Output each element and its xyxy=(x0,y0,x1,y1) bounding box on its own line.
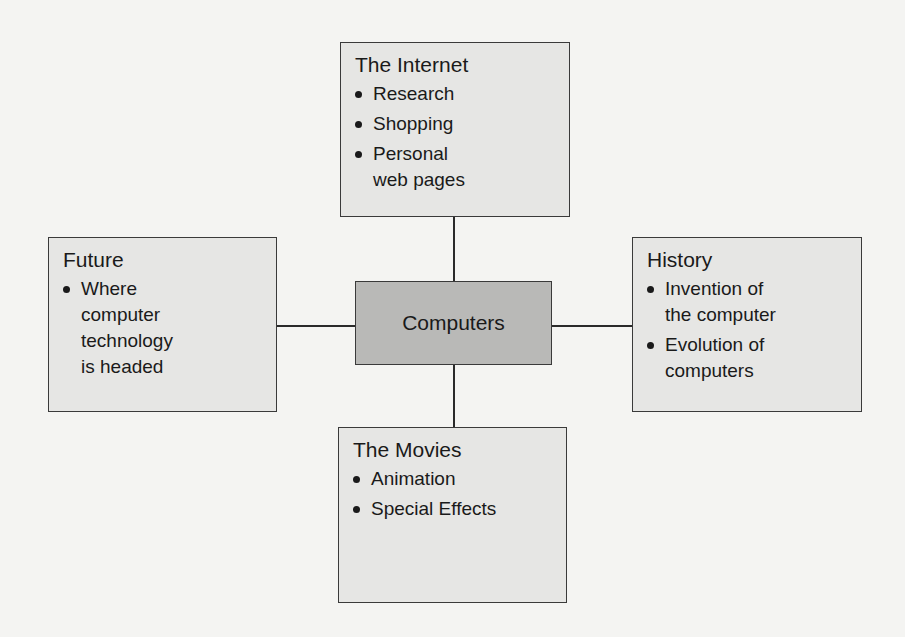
center-label: Computers xyxy=(402,311,505,335)
bullet-icon xyxy=(63,286,70,293)
list-item: Shopping xyxy=(355,111,555,137)
connector-bottom xyxy=(453,365,455,427)
bullet-icon xyxy=(647,286,654,293)
center-node-computers: Computers xyxy=(355,281,552,365)
bullet-icon xyxy=(355,151,362,158)
bullet-icon xyxy=(353,506,360,513)
node-the-internet: The Internet Research Shopping Personal … xyxy=(340,42,570,217)
node-title: The Movies xyxy=(353,436,552,464)
bullet-icon xyxy=(355,121,362,128)
list-item: Evolution of computers xyxy=(647,332,847,384)
connector-top xyxy=(453,217,455,281)
bullet-icon xyxy=(355,91,362,98)
list-item: Animation xyxy=(353,466,552,492)
list-item: Personal web pages xyxy=(355,141,555,193)
list-item: Special Effects xyxy=(353,496,552,522)
bullet-icon xyxy=(647,342,654,349)
node-title: Future xyxy=(63,246,262,274)
node-the-movies: The Movies Animation Special Effects xyxy=(338,427,567,603)
node-future: Future Where computer technology is head… xyxy=(48,237,277,412)
list-item: Where computer technology is headed xyxy=(63,276,262,380)
list-item: Invention of the computer xyxy=(647,276,847,328)
node-history: History Invention of the computer Evolut… xyxy=(632,237,862,412)
bullet-icon xyxy=(353,476,360,483)
node-title: The Internet xyxy=(355,51,555,79)
connector-left xyxy=(277,325,355,327)
connector-right xyxy=(552,325,632,327)
node-title: History xyxy=(647,246,847,274)
list-item: Research xyxy=(355,81,555,107)
